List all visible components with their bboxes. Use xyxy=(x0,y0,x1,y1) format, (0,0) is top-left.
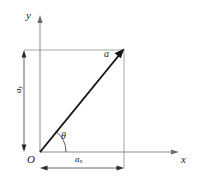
vector-components-figure: y x O a θ ax ay xyxy=(0,0,197,182)
ax-component-label-subscript: x xyxy=(80,157,83,164)
theta-angle-label: θ xyxy=(61,131,66,141)
ay-component-label-subscript: y xyxy=(16,86,23,89)
x-axis-arrowhead-icon xyxy=(171,149,179,154)
ax-dimension-group xyxy=(40,166,124,171)
ay-component-label-base: a xyxy=(13,89,23,94)
ay-dimension-arrowhead-bottom-icon xyxy=(22,145,27,153)
x-axis-group xyxy=(40,149,179,154)
y-axis-group xyxy=(37,15,42,152)
vector-a-label: a xyxy=(104,49,109,59)
ay-component-label: ay xyxy=(14,86,24,93)
ay-dimension-arrowhead-top-icon xyxy=(22,50,27,58)
ay-dimension-group xyxy=(22,50,27,152)
y-axis-label: y xyxy=(26,10,31,21)
x-axis-label: x xyxy=(181,154,186,165)
ax-dimension-arrowhead-right-icon xyxy=(117,166,125,171)
ax-dimension-arrowhead-left-icon xyxy=(40,166,48,171)
vector-a-group xyxy=(41,49,125,152)
origin-label: O xyxy=(27,154,35,165)
ax-component-label: ax xyxy=(75,155,82,165)
y-axis-arrowhead-icon xyxy=(37,15,42,23)
vector-a-line xyxy=(41,55,120,152)
